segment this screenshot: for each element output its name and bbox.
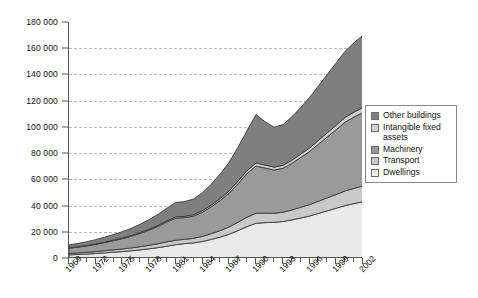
y-axis-tick-label: 0: [53, 253, 58, 263]
y-axis-tick-label: 100 000: [26, 122, 58, 132]
legend-item[interactable]: Other buildings: [370, 110, 452, 121]
legend-item-label: Transport: [383, 155, 419, 166]
y-axis-tick-label: 40 000: [31, 201, 58, 211]
legend-item-label: Intangible fixed assets: [383, 122, 452, 143]
x-axis-tick-mark: [166, 258, 167, 262]
legend-item[interactable]: Intangible fixed assets: [370, 122, 452, 143]
y-axis: 180 000160 000140 000120 000100 00080 00…: [0, 0, 68, 260]
chart-screenshot: 180 000160 000140 000120 000100 00080 00…: [0, 0, 478, 298]
y-axis-tick-label: 20 000: [31, 227, 58, 237]
legend-swatch-icon: [371, 157, 379, 165]
legend-item-label: Other buildings: [383, 110, 441, 121]
x-axis-tick-mark: [273, 258, 274, 262]
y-axis-tick-label: 160 000: [26, 43, 58, 53]
chart-legend: Other buildingsIntangible fixed assetsMa…: [365, 105, 457, 183]
legend-item[interactable]: Transport: [370, 155, 452, 166]
legend-item-label: Machinery: [383, 144, 423, 155]
x-axis-tick-mark: [246, 258, 247, 262]
x-axis-tick-mark: [353, 258, 354, 262]
y-axis-tick-label: 120 000: [26, 96, 58, 106]
plot-area: [68, 22, 362, 258]
y-axis-tick-label: 80 000: [31, 148, 58, 158]
legend-swatch-icon: [371, 146, 379, 154]
stacked-area-series: [69, 22, 362, 257]
y-axis-tick-label: 180 000: [26, 17, 58, 27]
y-axis-tick-label: 140 000: [26, 69, 58, 79]
legend-swatch-icon: [371, 112, 379, 120]
legend-item[interactable]: Machinery: [370, 144, 452, 155]
legend-swatch-icon: [371, 169, 379, 177]
legend-swatch-icon: [371, 124, 379, 132]
legend-item-label: Dwellings: [383, 167, 420, 178]
x-axis-tick-mark: [113, 258, 114, 262]
x-axis-tick-mark: [300, 258, 301, 262]
x-axis-tick-mark: [193, 258, 194, 262]
y-axis-tick-label: 60 000: [31, 174, 58, 184]
x-axis-tick-mark: [219, 258, 220, 262]
legend-item[interactable]: Dwellings: [370, 167, 452, 178]
x-axis-tick-mark: [139, 258, 140, 262]
area-series-svg: [69, 22, 362, 258]
x-axis-tick-mark: [326, 258, 327, 262]
x-axis: 1969197219751978198119841987199019931996…: [68, 258, 362, 298]
x-axis-tick-mark: [86, 258, 87, 262]
